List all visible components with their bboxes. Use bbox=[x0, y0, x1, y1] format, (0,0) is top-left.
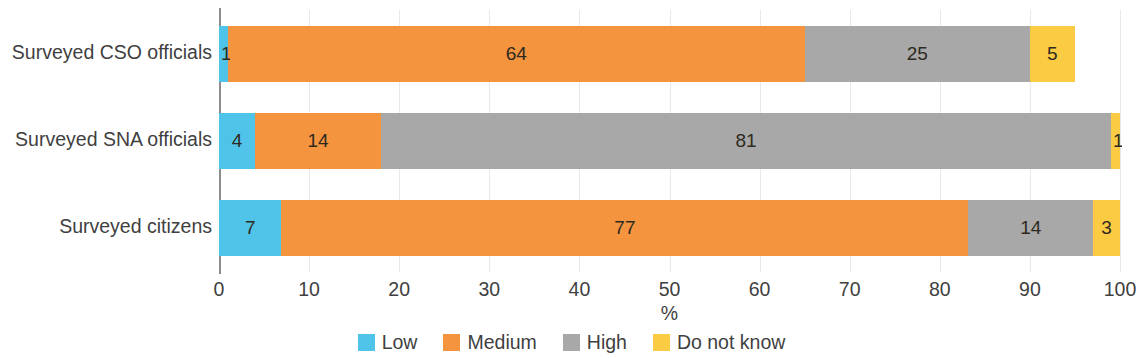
legend-swatch-icon bbox=[358, 334, 375, 351]
x-tick-label: 60 bbox=[749, 278, 771, 301]
bar-segment-value: 64 bbox=[506, 43, 527, 65]
legend-item[interactable]: Do not know bbox=[653, 331, 785, 354]
bar-segment-value: 25 bbox=[907, 43, 928, 65]
x-axis-title: % bbox=[219, 302, 1120, 325]
bar-segment-value: 5 bbox=[1047, 43, 1058, 65]
legend-swatch-icon bbox=[443, 334, 460, 351]
x-tick-label: 90 bbox=[1019, 278, 1041, 301]
bar-segment-value: 7 bbox=[245, 217, 256, 239]
bar-segment-value: 77 bbox=[614, 217, 635, 239]
category-label: Surveyed SNA officials bbox=[0, 128, 212, 151]
x-tick-label: 0 bbox=[214, 278, 225, 301]
x-tick-label: 30 bbox=[478, 278, 500, 301]
x-tick-label: 40 bbox=[569, 278, 591, 301]
category-label: Surveyed citizens bbox=[0, 215, 212, 238]
legend-item[interactable]: High bbox=[563, 331, 627, 354]
bar-segment[interactable]: 7 bbox=[219, 200, 281, 256]
x-tick-label: 70 bbox=[839, 278, 861, 301]
bar-segment-value: 81 bbox=[735, 130, 756, 152]
bar-segment[interactable]: 64 bbox=[228, 26, 805, 82]
x-tick-label: 100 bbox=[1104, 278, 1137, 301]
bar-segment[interactable]: 3 bbox=[1093, 200, 1120, 256]
category-label: Surveyed CSO officials bbox=[0, 41, 212, 64]
x-tick-label: 80 bbox=[929, 278, 951, 301]
bar-segment[interactable]: 14 bbox=[968, 200, 1093, 256]
bar-segment[interactable]: 1 bbox=[1111, 113, 1120, 169]
x-tick-label: 20 bbox=[388, 278, 410, 301]
bar-segment[interactable]: 5 bbox=[1030, 26, 1075, 82]
stacked-bar-chart: Surveyed CSO officialsSurveyed SNA offic… bbox=[0, 0, 1143, 358]
legend-label: Do not know bbox=[677, 331, 785, 354]
bar-segment-value: 4 bbox=[232, 130, 243, 152]
legend-swatch-icon bbox=[653, 334, 670, 351]
bar-segment[interactable]: 4 bbox=[219, 113, 255, 169]
bar-segment[interactable]: 14 bbox=[255, 113, 381, 169]
bar-segment-value: 14 bbox=[308, 130, 329, 152]
bar-segment-value: 14 bbox=[1020, 217, 1041, 239]
legend-label: High bbox=[587, 331, 627, 354]
bar-row: 777143 bbox=[219, 200, 1120, 256]
x-tick-label: 10 bbox=[298, 278, 320, 301]
legend-item[interactable]: Low bbox=[358, 331, 418, 354]
bar-segment[interactable]: 77 bbox=[281, 200, 968, 256]
legend-label: Low bbox=[382, 331, 418, 354]
bar-row: 164255 bbox=[219, 26, 1120, 82]
legend-label: Medium bbox=[467, 331, 536, 354]
x-tick-label: 50 bbox=[659, 278, 681, 301]
bar-segment[interactable]: 25 bbox=[805, 26, 1030, 82]
chart-legend: LowMediumHighDo not know bbox=[0, 331, 1143, 354]
bar-segment[interactable]: 1 bbox=[219, 26, 228, 82]
bar-row: 414811 bbox=[219, 113, 1120, 169]
bar-segment[interactable]: 81 bbox=[381, 113, 1111, 169]
bar-segment-value: 3 bbox=[1101, 217, 1112, 239]
legend-item[interactable]: Medium bbox=[443, 331, 536, 354]
legend-swatch-icon bbox=[563, 334, 580, 351]
gridline bbox=[1120, 10, 1121, 272]
